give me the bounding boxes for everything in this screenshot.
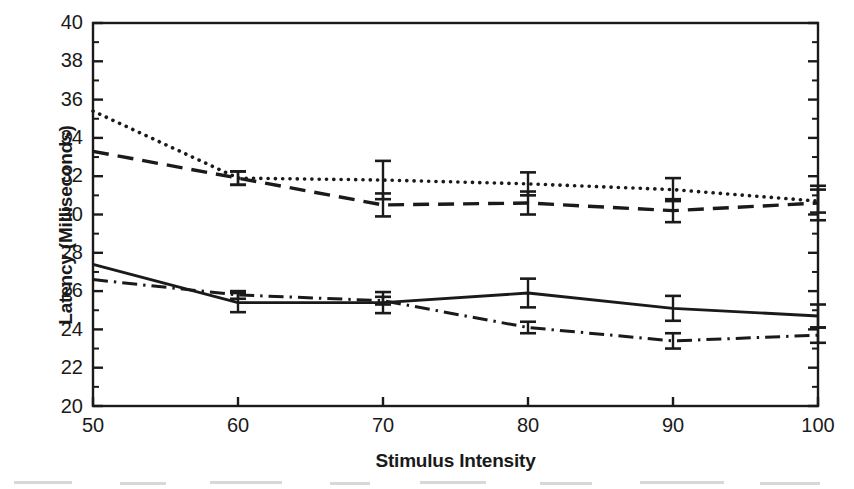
- page-scan-artifact: [0, 476, 854, 489]
- data-series-group: [93, 111, 818, 341]
- series-line-dashed-series: [93, 151, 818, 210]
- series-line-dotted-series: [93, 111, 818, 201]
- axis-ticks: [93, 23, 818, 406]
- figure-container: Latency (Milliseconds) Stimulus Intensit…: [0, 0, 854, 489]
- error-bars-group: [230, 161, 826, 349]
- line-chart-plot: [0, 0, 854, 489]
- error-bar-dotted-series-x90: [665, 178, 681, 201]
- plot-frame: [93, 23, 818, 406]
